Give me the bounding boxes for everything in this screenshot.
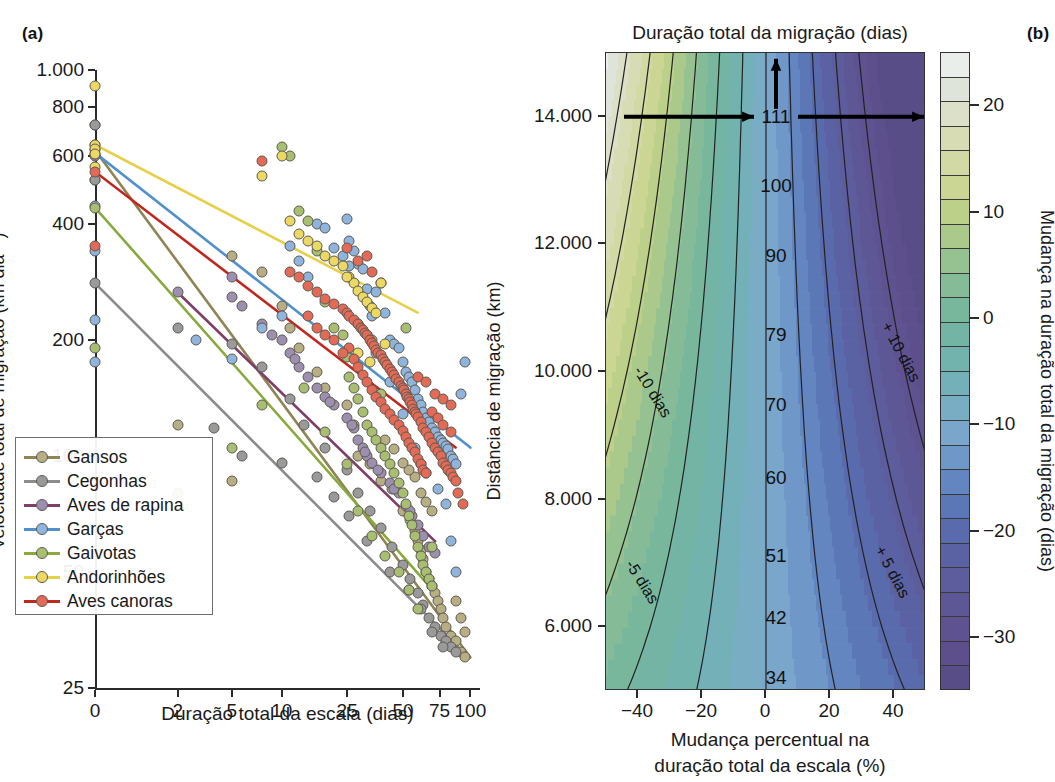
colorbar-ticklabel: −30: [983, 626, 1015, 648]
panel-a-data-point: [311, 382, 322, 393]
contour-band: [922, 627, 925, 644]
contour-band: [922, 563, 925, 580]
panel-a-data-point: [226, 354, 237, 365]
panel-a-data-point: [357, 406, 368, 417]
panel-a-data-point: [320, 427, 331, 438]
panel-a-y-tick: [88, 106, 95, 108]
panel-a-data-point: [433, 483, 444, 494]
colorbar-cell: [941, 53, 969, 78]
panel-b-y-ticklabel: 8.000: [520, 488, 592, 510]
contour-band: [922, 388, 925, 405]
panel-a-data-point: [406, 520, 417, 531]
panel-a-data-point: [90, 80, 101, 91]
contour-value-label: 70: [765, 394, 786, 416]
panel-a-x-tick: [439, 690, 441, 697]
legend-dot: [36, 571, 48, 583]
contour-band: [922, 468, 925, 485]
contour-band: [922, 324, 925, 341]
panel-a-data-point: [360, 447, 371, 458]
panel-b-y-ticklabel: 12.000: [520, 232, 592, 254]
panel-a-data-point: [373, 464, 384, 475]
contour-band: [922, 356, 925, 373]
panel-a-data-point: [256, 400, 267, 411]
panel-a-data-point: [342, 214, 353, 225]
panel-a-legend: GansosCegonhasAves de rapinaGarçasGaivot…: [15, 437, 213, 615]
legend-item-andorinhões[interactable]: Andorinhões: [24, 565, 212, 589]
legend-item-label: Aves de rapina: [67, 495, 183, 516]
panel-a-data-point: [403, 584, 414, 595]
panel-a-ylabel: Velocidade total de migração (km dia⁻¹): [0, 232, 9, 549]
legend-item-aves-de-rapina[interactable]: Aves de rapina: [24, 493, 212, 517]
panel-a-data-point: [90, 278, 101, 289]
colorbar-cell: [941, 298, 969, 323]
contour-band: [924, 292, 925, 309]
contour-band: [922, 595, 925, 612]
legend-marker-icon: [24, 595, 60, 608]
colorbar-cell: [941, 102, 969, 127]
colorbar-ticklabel: −10: [983, 413, 1015, 435]
colorbar-tick: [970, 211, 979, 213]
contour-band: [924, 532, 925, 549]
panel-a-data-point: [276, 300, 287, 311]
contour-band: [922, 675, 925, 690]
legend-dot: [36, 451, 48, 463]
colorbar-cell: [941, 446, 969, 471]
contour-band: [922, 197, 925, 214]
colorbar-cell: [941, 372, 969, 397]
panel-a-regression-line: [95, 172, 456, 448]
panel-b-x-ticklabel: 0: [760, 700, 771, 722]
legend-item-gansos[interactable]: Gansos: [24, 445, 212, 469]
colorbar-tick: [970, 530, 979, 532]
panel-a-data-point: [294, 272, 305, 283]
panel-a-y-tick: [88, 339, 95, 341]
panel-a-data-point: [256, 361, 267, 372]
legend-item-garças[interactable]: Garças: [24, 517, 212, 541]
colorbar-cell: [941, 176, 969, 201]
legend-item-aves-canoras[interactable]: Aves canoras: [24, 589, 212, 613]
panel-a-y-ticklabel: 25: [63, 677, 84, 699]
panel-a-data-point: [226, 338, 237, 349]
panel-a-data-point: [226, 476, 237, 487]
panel-a-data-point: [415, 488, 426, 499]
panel-b-x-ticklabel: −40: [621, 700, 653, 722]
panel-a-data-point: [226, 442, 237, 453]
panel-a-y-ticklabel: 400: [52, 213, 84, 235]
panel-a-data-point: [256, 266, 267, 277]
contour-band: [922, 165, 925, 182]
panel-b-y-ticklabel: 6.000: [520, 615, 592, 637]
panel-a-x-tick: [94, 690, 96, 697]
panel-a-data-point: [324, 396, 335, 407]
contour-band: [922, 547, 925, 564]
contour-band: [922, 133, 925, 150]
panel-a-data-point: [342, 243, 353, 254]
panel-a-data-point: [90, 149, 101, 160]
panel-a-data-point: [172, 322, 183, 333]
panel-a-data-point: [346, 420, 357, 431]
colorbar-cell: [941, 495, 969, 520]
panel-b-y-tick: [598, 370, 606, 372]
contour-value-label: 51: [765, 545, 786, 567]
colorbar-cell: [941, 519, 969, 544]
legend-item-cegonhas[interactable]: Cegonhas: [24, 469, 212, 493]
legend-marker-icon: [24, 571, 60, 584]
panel-a-data-point: [364, 505, 375, 516]
panel-a-data-point: [320, 330, 331, 341]
legend-marker-icon: [24, 451, 60, 464]
contour-band: [922, 404, 925, 421]
legend-item-gaivotas[interactable]: Gaivotas: [24, 541, 212, 565]
contour-band: [924, 675, 925, 690]
panel-b-xlabel-line1: Mudança percentual na: [585, 727, 955, 753]
panel-a-data-point: [320, 442, 331, 453]
panel-a-data-point: [276, 457, 287, 468]
colorbar-cell: [941, 274, 969, 299]
contour-band: [924, 468, 925, 485]
legend-item-label: Gansos: [67, 447, 127, 468]
panel-a-data-point: [353, 394, 364, 405]
contour-value-label: 34: [765, 667, 786, 689]
contour-band: [922, 244, 925, 261]
contour-band: [924, 484, 925, 501]
panel-a-data-point: [302, 372, 313, 383]
panel-b-xlabel: Mudança percentual na duração total da e…: [585, 727, 955, 778]
panel-a-y-tick: [88, 69, 95, 71]
contour-band: [922, 659, 925, 676]
